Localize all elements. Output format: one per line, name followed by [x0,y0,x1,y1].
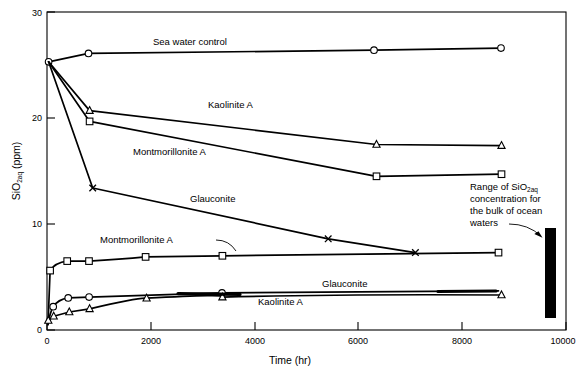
data-point-marker-square [47,267,54,274]
y-ticklabel-30: 30 [32,8,42,18]
series-line-montmorillonite-a-desorption [49,62,502,177]
series-label-montmorillonite-a-adsorption: Montmorillonite A [100,234,174,245]
plot-frame [47,12,566,330]
data-point-marker-circle [50,303,57,310]
x-ticklabel-10000: 10000 [550,336,575,346]
data-point-marker-circle [498,45,505,52]
series-line-kaolinite-a-desorption [49,62,502,146]
x-axis-title: Time (hr) [269,354,311,366]
chart-figure: 0 10 20 30 0 2000 4000 6000 8000 10000 T… [0,0,586,375]
series-label-glauconite-adsorption: Glauconite [322,278,367,289]
series-label-kaolinite-a-adsorption: Kaolinite A [258,296,304,307]
series-emphasis-segment-glauconite [178,294,240,295]
data-point-marker-square [86,258,93,265]
x-ticklabel-8000: 8000 [452,336,472,346]
x-axis-ticks [47,322,566,330]
annotation-line4: waters [469,217,498,228]
y-ticklabel-0: 0 [37,325,42,335]
series-line-montmorillonite-a-adsorption [48,253,499,325]
svg-text:SiO2aq (ppm): SiO2aq (ppm) [10,142,24,201]
series-line-glauconite-desorption [49,62,416,253]
x-ticklabel-0: 0 [44,336,49,346]
data-point-marker-square [498,171,505,178]
data-point-marker-square [495,249,502,256]
series-label-sea-water-control: Sea water control [153,36,227,47]
y-axis-title-unit: (ppm) [10,142,22,172]
data-point-marker-square [86,118,93,125]
ocean-range-annotation: Range of SiO2aq concentration for the bu… [469,181,542,228]
annotation-line3: the bulk of ocean [470,205,542,216]
annotation-arrow [509,224,543,238]
x-ticklabel-4000: 4000 [245,336,265,346]
chart-svg: 0 10 20 30 0 2000 4000 6000 8000 10000 T… [0,0,586,375]
data-point-marker-circle [85,50,92,57]
x-axis-ticklabels: 0 2000 4000 6000 8000 10000 [44,336,575,346]
series-label-kaolinite-a-desorption: Kaolinite A [208,99,254,110]
data-point-marker-square [373,173,380,180]
series-label-montmorillonite-a-desorption: Montmorillonite A [133,146,207,157]
data-point-marker-square [64,258,71,265]
series-line-sea-water-control [49,48,501,62]
arrowhead-icon [534,231,542,238]
data-point-marker-circle [65,295,72,302]
series-kaolinite-a-desorption: Kaolinite A [49,62,506,149]
y-axis-ticklabels: 0 10 20 30 [32,8,42,335]
series-sea-water-control: Sea water control [45,36,504,65]
data-point-marker-square [142,254,149,261]
annotation-line2: concentration for [470,193,541,204]
x-ticklabel-6000: 6000 [348,336,368,346]
y-ticklabel-20: 20 [32,113,42,123]
data-point-marker-circle [86,294,93,301]
y-axis-title-main: SiO [10,183,22,201]
series-montmorillonite-a-desorption: Montmorillonite A [49,62,505,180]
data-point-marker-square [219,253,226,260]
series-montmorillonite-a-adsorption: Montmorillonite A [47,234,502,325]
ocean-silica-range-bar [545,228,556,318]
y-axis-title: SiO2aq (ppm) [10,142,24,201]
x-ticklabel-2000: 2000 [141,336,161,346]
leader-line-montmorillonite-adsorption [216,240,236,251]
series-emphasis-segment-glauconite-tail [438,291,496,292]
series-label-glauconite-desorption: Glauconite [190,193,235,204]
data-point-marker-circle [371,47,378,54]
annotation-line1-main: Range of SiO [470,181,527,192]
series-glauconite-desorption: Glauconite [49,62,419,256]
y-ticklabel-10: 10 [32,219,42,229]
